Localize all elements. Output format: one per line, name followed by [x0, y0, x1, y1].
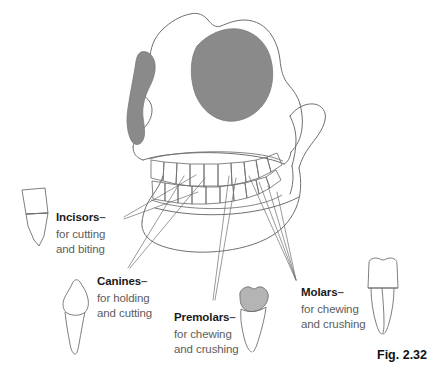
premolars-line-2: and crushing	[174, 342, 239, 357]
molars-dash: –	[337, 286, 343, 298]
incisors-line-1: for cutting	[56, 227, 106, 242]
premolar-tooth-illustration	[240, 287, 268, 352]
incisors-heading: Incisors	[56, 211, 99, 223]
lower-tooth-row	[151, 170, 282, 209]
label-premolars: Premolars– for chewing and crushing	[174, 306, 239, 357]
label-incisors: Incisors– for cutting and biting	[56, 206, 106, 257]
incisors-dash: –	[99, 211, 105, 223]
label-molars: Molars– for chewing and crushing	[301, 281, 366, 332]
premolars-line-1: for chewing	[174, 327, 239, 342]
molars-line-2: and crushing	[301, 317, 366, 332]
tooth-types-figure: Incisors– for cutting and biting Canines…	[0, 0, 441, 384]
canine-tooth-illustration	[63, 280, 88, 354]
premolars-heading: Premolars	[174, 311, 229, 323]
figure-caption: Fig. 2.32	[377, 348, 427, 362]
incisor-tooth-illustration	[22, 188, 48, 246]
incisors-line-2: and biting	[56, 242, 106, 257]
mandible-outline	[142, 104, 326, 252]
molars-heading: Molars	[301, 286, 337, 298]
molar-tooth-illustration	[368, 258, 398, 334]
label-canines: Canines– for holding and cutting	[97, 270, 152, 321]
canines-heading: Canines	[97, 275, 141, 287]
temporal-fossa-shading	[191, 29, 272, 121]
upper-tooth-row	[149, 152, 283, 187]
molars-line-1: for chewing	[301, 302, 366, 317]
canines-line-1: for holding	[97, 291, 152, 306]
premolars-dash: –	[229, 311, 235, 323]
canines-line-2: and cutting	[97, 306, 152, 321]
canines-dash: –	[141, 275, 147, 287]
zygomatic-shading	[127, 52, 155, 145]
